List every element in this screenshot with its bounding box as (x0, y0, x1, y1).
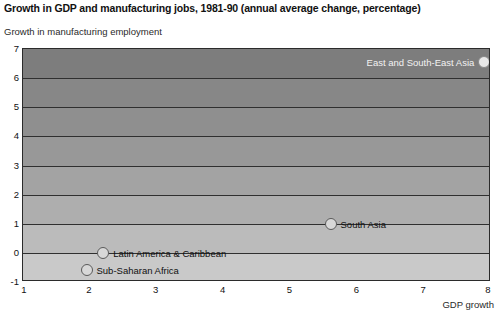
gridline (23, 253, 489, 254)
gridline (23, 78, 489, 79)
chart-title: Growth in GDP and manufacturing jobs, 19… (4, 2, 421, 14)
data-point-label: East and South-East Asia (367, 57, 475, 68)
x-tick-label: 7 (420, 284, 425, 295)
data-point-label: Sub-Saharan Africa (97, 265, 179, 276)
background-band (23, 166, 489, 195)
x-tick-label: 3 (153, 284, 158, 295)
data-point-marker[interactable] (97, 247, 109, 259)
y-tick-label: 0 (1, 246, 19, 257)
gridline (23, 166, 489, 167)
background-band (23, 107, 489, 136)
x-tick-label: 4 (220, 284, 225, 295)
background-band (23, 136, 489, 165)
gridline (23, 136, 489, 137)
gridline (23, 107, 489, 108)
x-tick-label: 2 (86, 284, 91, 295)
background-band (23, 78, 489, 107)
data-point-marker[interactable] (325, 218, 337, 230)
y-tick-label: 2 (1, 188, 19, 199)
x-tick-label: 8 (485, 284, 490, 295)
y-tick-label: 1 (1, 217, 19, 228)
background-band (23, 253, 489, 281)
y-axis-tick-labels: -101234567 (0, 0, 19, 316)
background-band (23, 224, 489, 253)
plot-area: East and South-East AsiaSouth AsiaLatin … (22, 48, 490, 281)
x-axis-label: GDP growth (442, 299, 494, 310)
x-tick-label: 1 (21, 284, 26, 295)
x-tick-label: 6 (354, 284, 359, 295)
y-tick-label: 5 (1, 101, 19, 112)
y-tick-label: 7 (1, 43, 19, 54)
x-tick-label: 5 (287, 284, 292, 295)
data-point-label: South Asia (341, 218, 386, 229)
background-band (23, 195, 489, 224)
y-tick-label: -1 (1, 276, 19, 287)
y-tick-label: 6 (1, 72, 19, 83)
data-point-label: Latin America & Caribbean (113, 247, 226, 258)
y-axis-label: Growth in manufacturing employment (4, 26, 162, 37)
y-tick-label: 4 (1, 130, 19, 141)
y-tick-label: 3 (1, 159, 19, 170)
data-point-marker[interactable] (81, 264, 93, 276)
gridline (23, 224, 489, 225)
gridline (23, 195, 489, 196)
